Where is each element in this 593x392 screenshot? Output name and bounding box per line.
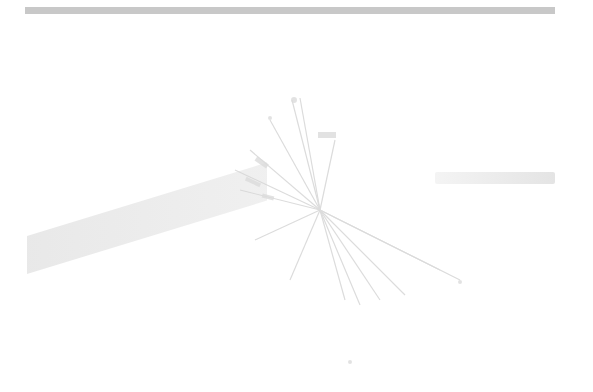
photo [0, 0, 593, 392]
dandelion-burst [0, 0, 593, 392]
